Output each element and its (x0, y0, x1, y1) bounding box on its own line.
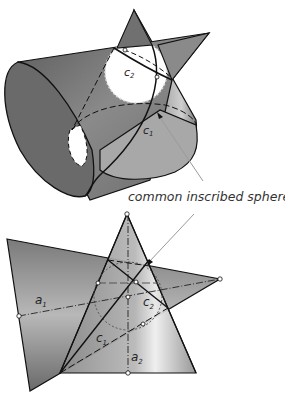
top-3d-figure: c2 c1 (5, 10, 209, 200)
bottom-projection: a1 a2 c1 c2 (7, 212, 222, 391)
diagram-canvas: c2 c1 common inscribed sphere (0, 0, 285, 398)
sphere-center-point (126, 295, 130, 299)
tangent-point (155, 75, 159, 79)
tangent-point (123, 48, 127, 52)
pointer-arrow-bottom (149, 214, 194, 262)
tangent-point (96, 281, 100, 285)
tangent-point (141, 322, 145, 326)
cone-apex (117, 10, 152, 48)
apex-point-horizontal (218, 277, 222, 281)
inscribed-sphere (105, 41, 167, 103)
axis-a1-end-point (17, 314, 21, 318)
caption-common-inscribed-sphere: common inscribed sphere (128, 189, 285, 204)
apex-point-vertical (125, 212, 129, 216)
axis-a2-end-point (126, 371, 130, 375)
intersection-point (134, 280, 138, 284)
